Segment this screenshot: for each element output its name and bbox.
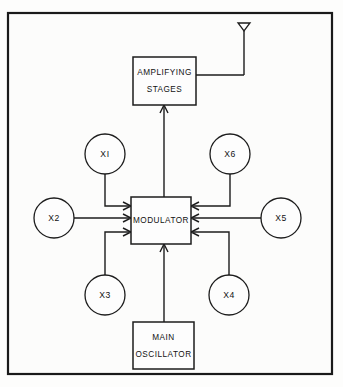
node-x1-label: XI <box>100 149 109 159</box>
amplifying-stages-label-line1: AMPLIFYING <box>137 68 192 77</box>
amplifying-stages-box[interactable] <box>133 57 196 105</box>
node-x5-label: X5 <box>275 213 287 223</box>
main-oscillator-label-line2: OSCILLATOR <box>135 350 191 359</box>
main-oscillator-label-line1: MAIN <box>152 333 174 342</box>
node-x6-label: X6 <box>224 149 236 159</box>
modulator-label: MODULATOR <box>133 216 189 225</box>
main-oscillator-box[interactable] <box>133 322 194 369</box>
node-x3-label: X3 <box>99 290 111 300</box>
diagram-page: AMPLIFYING STAGES MODULATOR MAIN OSCILLA… <box>0 0 343 387</box>
node-x2-label: X2 <box>48 213 60 223</box>
block-diagram: AMPLIFYING STAGES MODULATOR MAIN OSCILLA… <box>0 0 343 387</box>
amplifying-stages-label-line2: STAGES <box>147 85 183 94</box>
node-x4-label: X4 <box>223 290 235 300</box>
